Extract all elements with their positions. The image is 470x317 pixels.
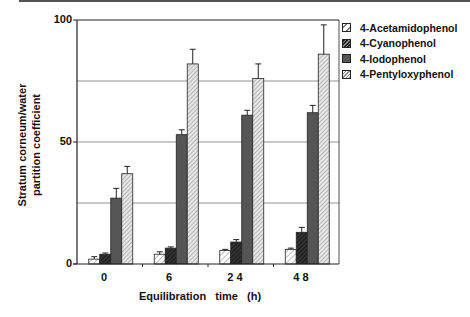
bar-4-cyanophenol-t0 [100,254,111,264]
bar-4-cyanophenol-t24 [231,242,242,264]
bar-4-acetamidophenol-t24 [220,251,231,264]
bar-4-iodophenol-t0 [111,198,122,264]
legend-swatch-iodophenol [342,54,351,63]
x-tick-48: 4 8 [281,271,321,283]
legend-swatch-pentyloxyphenol [342,70,351,79]
legend-item-iodophenol: 4-Iodophenol [342,51,457,67]
bar-4-pentyloxyphenol-t48 [318,54,329,264]
legend-item-acetamidophenol: 4-Acetamidophenol [342,20,457,36]
bar-4-iodophenol-t24 [242,115,253,264]
bar-4-iodophenol-t6 [176,135,187,264]
legend-label: 4-Cyanophenol [360,37,436,49]
legend-item-cyanophenol: 4-Cyanophenol [342,36,457,52]
bar-4-cyanophenol-t48 [296,232,307,264]
legend-swatch-acetamidophenol [342,23,351,32]
legend-label: 4-Iodophenol [360,53,426,65]
bar-4-acetamidophenol-t48 [285,249,296,264]
bar-4-iodophenol-t48 [307,113,318,264]
bar-4-pentyloxyphenol-t24 [253,79,264,264]
legend-swatch-cyanophenol [342,39,351,48]
x-tick-24: 2 4 [215,271,255,283]
legend-item-pentyloxyphenol: 4-Pentyloxyphenol [342,67,457,83]
x-tick-0: 0 [84,271,124,283]
bar-4-pentyloxyphenol-t6 [187,64,198,264]
legend: 4-Acetamidophenol 4-Cyanophenol 4-Iodoph… [342,20,457,82]
legend-label: 4-Pentyloxyphenol [360,68,453,80]
legend-label: 4-Acetamidophenol [360,22,457,34]
x-tick-6: 6 [149,271,189,283]
bar-4-acetamidophenol-t6 [154,254,165,264]
bar-4-acetamidophenol-t0 [89,259,100,264]
x-axis-label: Equilibration time (h) [139,290,261,302]
bars [89,25,330,264]
bar-4-pentyloxyphenol-t0 [122,174,133,264]
bar-4-cyanophenol-t6 [165,248,176,264]
